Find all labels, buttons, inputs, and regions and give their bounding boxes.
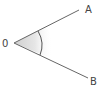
- angle-diagram: 0 A B: [0, 0, 102, 91]
- vertex-label: 0: [2, 38, 8, 49]
- point-a-label: A: [85, 4, 92, 15]
- point-b-label: B: [90, 76, 97, 87]
- angle-shaded-region: [14, 26, 52, 58]
